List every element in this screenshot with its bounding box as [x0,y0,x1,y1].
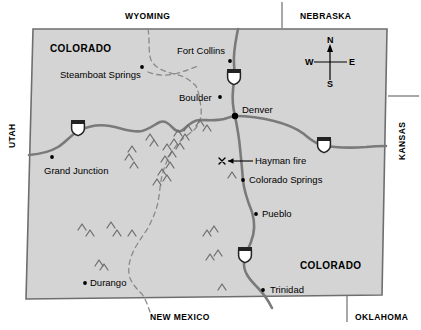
city-dot-trinidad [261,288,265,292]
highway-shield-i-25-south: 25 [238,247,252,263]
neighbor-state-nebraska: NEBRASKA [300,12,351,21]
neighbor-state-utah: UTAH [8,123,17,148]
city-dot-fort-collins [228,59,232,63]
highway-shield-number: 70 [75,126,81,132]
city-dot-pueblo [254,212,258,216]
compass-south-label: S [327,79,333,89]
compass-west-label: W [305,57,314,67]
compass-east-label: E [349,57,355,67]
highway-shield-i-70-east: 70 [317,137,331,153]
neighbor-state-oklahoma: OKLAHOMA [355,313,408,322]
state-label-colorado-northwest: COLORADO [50,44,112,54]
highway-shield-i-70-west: 70 [71,120,85,136]
city-dot-boulder [218,95,222,99]
city-label-boulder: Boulder [179,93,212,103]
city-label-trinidad: Trinidad [270,285,304,295]
highway-shield-number: 70 [321,143,327,149]
city-dot-colorado-springs [241,178,245,182]
city-label-denver: Denver [242,105,273,115]
neighbor-state-new-mexico: NEW MEXICO [150,313,210,322]
city-dot-denver [232,113,238,119]
highway-shield-i-25-north: 25 [227,69,241,85]
city-label-steamboat-springs: Steamboat Springs [60,70,141,80]
state-label-colorado-southeast: COLORADO [300,261,362,271]
city-label-fort-collins: Fort Collins [177,46,225,56]
colorado-map: 70702525 WYOMINGNEBRASKAUTAHKANSASNEW ME… [0,0,421,330]
compass-north-label: N [327,35,334,45]
highway-shield-number: 25 [231,75,237,81]
neighbor-state-wyoming: WYOMING [125,12,170,21]
city-label-colorado-springs: Colorado Springs [249,175,322,185]
neighbor-state-kansas: KANSAS [398,122,407,160]
city-label-durango: Durango [90,278,126,288]
highway-shield-number: 25 [242,253,248,259]
annotation-label-hayman-fire: Hayman fire [255,156,306,166]
city-label-pueblo: Pueblo [262,209,292,219]
city-dot-grand-junction [50,155,54,159]
city-dot-durango [83,281,87,285]
city-label-grand-junction: Grand Junction [44,166,108,176]
